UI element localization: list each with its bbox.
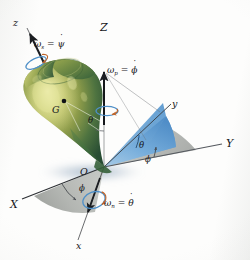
- precession-rate: ϕ: [131, 66, 137, 75]
- angle-label-theta-body: θ: [88, 116, 93, 125]
- center-of-gravity-label: G: [52, 105, 60, 115]
- center-of-gravity-dot: [62, 99, 67, 104]
- spin-rate: ψ: [58, 40, 65, 49]
- axis-label-x: x: [76, 241, 81, 251]
- precession-equation: ωp = ϕ: [107, 66, 137, 76]
- axis-label-Z: Z: [100, 22, 108, 33]
- spin-equals: =: [47, 39, 55, 49]
- nutation-rate: θ: [128, 199, 133, 208]
- axis-label-y: y: [172, 99, 177, 109]
- precession-subscript: p: [114, 70, 118, 76]
- spin-subscript: s: [41, 44, 44, 50]
- axis-label-Y: Y: [226, 138, 233, 149]
- angle-label-theta-wedge: θ: [139, 141, 144, 150]
- nutation-equation: ωn = θ: [104, 199, 134, 209]
- spin-equation: ωs = ψ: [34, 40, 65, 50]
- origin-label: O: [80, 167, 88, 177]
- nutation-equals: =: [118, 198, 126, 208]
- angle-label-phi-lower: ϕ: [79, 184, 85, 193]
- angle-label-phi-wedge: ϕ: [145, 155, 151, 164]
- nutation-subscript: n: [111, 203, 115, 209]
- precession-equals: =: [121, 65, 129, 75]
- axis-label-z: z: [13, 18, 18, 28]
- axis-label-X: X: [10, 199, 18, 210]
